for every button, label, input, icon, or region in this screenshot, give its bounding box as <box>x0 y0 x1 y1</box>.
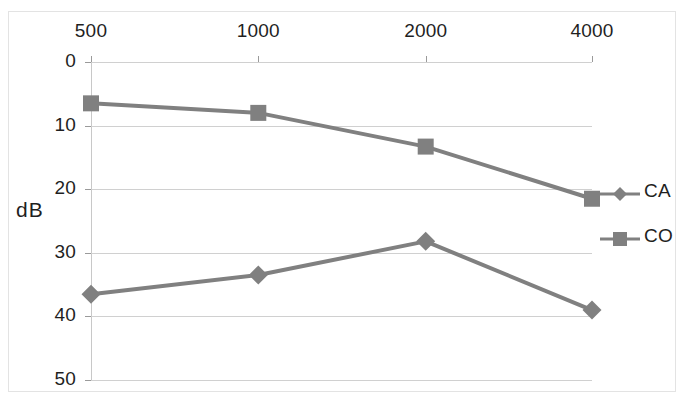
chart-frame-border <box>8 11 676 392</box>
y-axis-tick <box>85 253 91 254</box>
y-axis-tick-label: 30 <box>32 241 76 263</box>
y-axis-tick <box>85 380 91 381</box>
gridline <box>91 189 592 190</box>
y-axis-tick <box>85 189 91 190</box>
gridline <box>91 253 592 254</box>
x-axis-tick-label: 2000 <box>386 20 466 42</box>
audiogram-line-chart: dB 01020304050 500100020004000 CA CO <box>0 0 687 403</box>
chart-legend: CA CO <box>600 176 682 266</box>
y-axis-tick <box>85 126 91 127</box>
y-axis-tick <box>85 316 91 317</box>
x-axis-tick-label: 500 <box>51 20 131 42</box>
x-axis-tick <box>426 56 427 62</box>
x-axis-tick <box>258 56 259 62</box>
y-axis-title: dB <box>16 198 44 222</box>
x-axis-tick <box>91 56 92 62</box>
y-axis-tick-label: 20 <box>32 177 76 199</box>
legend-item-co[interactable]: CO <box>600 221 682 266</box>
gridline <box>91 316 592 317</box>
y-axis-tick-label: 40 <box>32 304 76 326</box>
y-axis-line <box>91 62 92 380</box>
y-axis-tick-label: 10 <box>32 114 76 136</box>
legend-label-ca: CA <box>644 180 671 202</box>
y-axis-tick <box>85 62 91 63</box>
y-axis-tick-label: 0 <box>32 50 76 72</box>
gridline <box>91 126 592 127</box>
x-axis-tick <box>592 56 593 62</box>
x-axis-tick-label: 4000 <box>552 20 632 42</box>
x-axis-tick-label: 1000 <box>218 20 298 42</box>
legend-item-ca[interactable]: CA <box>600 176 682 221</box>
diamond-marker-icon <box>600 184 640 204</box>
gridline <box>91 380 592 381</box>
y-axis-tick-label: 50 <box>32 368 76 390</box>
gridline <box>91 62 592 63</box>
square-marker-icon <box>600 229 640 249</box>
legend-label-co: CO <box>644 225 673 247</box>
